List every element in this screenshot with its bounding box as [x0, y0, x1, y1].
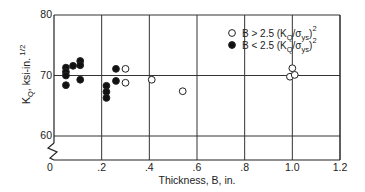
- open-circle-marker: [148, 76, 155, 83]
- filled-circle-marker: [70, 62, 77, 69]
- y-axis-label-text: KQ, ksi-in. 1/2: [18, 44, 35, 104]
- filled-circle-marker: [77, 76, 84, 83]
- open-circle-marker: [291, 71, 298, 78]
- filled-circle-marker: [63, 82, 70, 89]
- filled-circle-marker: [103, 94, 110, 101]
- x-tick-label: .2: [97, 161, 106, 173]
- filled-circle-marker: [113, 78, 120, 85]
- open-circle-marker: [122, 79, 129, 86]
- x-axis-label: Thickness, B, in.: [158, 174, 235, 186]
- y-tick-label: 80: [40, 8, 52, 20]
- x-tick-labels: 0.2.4.6.81.01.2: [47, 161, 347, 173]
- x-tick-label: .4: [145, 161, 154, 173]
- legend: B > 2.5 (KQ/σys)2B < 2.5 (KQ/σys)2: [229, 24, 317, 54]
- data-points: [63, 58, 299, 102]
- legend-open-circle-icon: [229, 30, 236, 37]
- y-axis-label: KQ, ksi-in. 1/2: [18, 44, 35, 104]
- y-tick-labels: 607080: [40, 8, 52, 141]
- x-tick-label: 1.0: [285, 161, 300, 173]
- x-tick-label: 1.2: [333, 161, 348, 173]
- x-tick-label: .6: [193, 161, 202, 173]
- y-tick-label: 70: [40, 69, 52, 81]
- open-circle-marker: [122, 65, 129, 72]
- fracture-toughness-chart: 0.2.4.6.81.01.2 607080 B > 2.5 (KQ/σys)2…: [0, 0, 365, 192]
- axis-break-icon: [48, 143, 57, 160]
- open-circle-marker: [289, 65, 296, 72]
- x-tick-label: 0: [47, 161, 53, 173]
- filled-circle-marker: [63, 72, 70, 79]
- y-tick-label: 60: [40, 129, 52, 141]
- filled-circle-marker: [113, 65, 120, 72]
- legend-filled-circle-icon: [229, 42, 236, 49]
- open-circle-marker: [179, 88, 186, 95]
- x-tick-label: .8: [240, 161, 249, 173]
- filled-circle-marker: [77, 62, 84, 69]
